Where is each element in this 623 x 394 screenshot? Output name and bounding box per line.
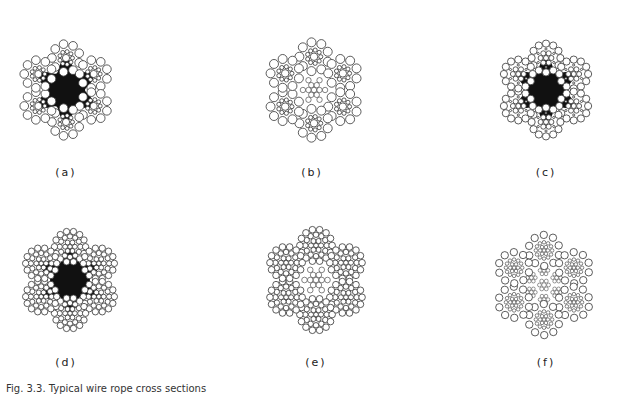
inner-wire <box>58 122 62 126</box>
inner-wire <box>508 301 512 305</box>
outer-wire <box>327 59 336 68</box>
outer-wire <box>550 131 557 138</box>
outer-wire <box>110 287 116 293</box>
outer-wire <box>270 93 279 102</box>
panel-label-f: (f) <box>537 356 555 369</box>
inner-wire <box>317 50 321 54</box>
inner-wire <box>549 119 554 124</box>
filler-wire <box>573 82 575 84</box>
inner-wire <box>286 290 291 295</box>
strand <box>22 278 59 315</box>
core-wire <box>317 97 322 102</box>
outer-wire <box>279 244 286 251</box>
outer-wire <box>99 309 105 315</box>
inner-wire <box>346 76 350 80</box>
outer-wire <box>316 226 323 233</box>
outer-wire <box>297 252 304 259</box>
core-wire <box>571 103 576 108</box>
inner-wire <box>337 99 341 103</box>
outer-wire <box>323 114 332 123</box>
mid-wire <box>512 309 516 313</box>
core-wire <box>547 283 551 287</box>
outer-wire <box>28 248 34 254</box>
core-wire <box>311 87 316 92</box>
inner-wire <box>33 78 37 82</box>
inner-wire <box>277 107 281 111</box>
mid-wire <box>564 266 568 270</box>
filler-wire <box>509 77 511 79</box>
inner-wire <box>348 71 352 75</box>
mid-wire <box>549 253 553 257</box>
inner-wire <box>346 299 351 304</box>
inner-wire <box>69 116 73 120</box>
core-wire <box>544 279 548 283</box>
inner-wire <box>70 240 75 245</box>
inner-wire <box>516 301 520 305</box>
outer-wire <box>273 272 280 279</box>
outer-wire <box>556 70 563 77</box>
outer-wire <box>279 310 286 317</box>
outer-wire <box>298 318 305 325</box>
inner-wire <box>513 99 518 104</box>
strand <box>22 245 59 282</box>
filler-wire <box>565 68 567 70</box>
mid-wire <box>505 262 509 266</box>
outer-wire <box>496 294 503 301</box>
inner-wire <box>88 110 92 114</box>
outer-wire <box>28 306 34 312</box>
inner-wire <box>284 98 288 102</box>
outer-wire <box>299 259 306 266</box>
core-wire <box>553 279 557 283</box>
outer-wire <box>92 245 98 251</box>
outer-wire <box>561 277 568 284</box>
mid-wire <box>568 259 572 263</box>
inner-wire <box>37 98 41 102</box>
outer-wire <box>24 287 30 293</box>
filler-wire <box>509 68 511 70</box>
iwrc-core <box>300 78 328 103</box>
core-wire <box>319 267 325 273</box>
core-wire <box>281 70 288 77</box>
outer-wire <box>353 247 360 254</box>
mid-wire <box>576 259 580 263</box>
mid-wire <box>546 256 550 260</box>
inner-wire <box>538 249 542 253</box>
outer-wire <box>527 63 534 70</box>
core-wire <box>553 287 557 291</box>
core-wire <box>512 301 516 305</box>
filler-wire <box>553 52 555 54</box>
inner-wire <box>94 290 99 295</box>
strand <box>80 245 117 282</box>
mid-wire <box>538 256 542 260</box>
inner-wire <box>280 110 284 114</box>
outer-wire <box>294 107 303 116</box>
mid-wire <box>565 305 569 309</box>
core-wire <box>542 318 546 322</box>
inner-wire <box>574 99 579 104</box>
outer-wire <box>353 281 360 288</box>
inner-wire <box>311 308 316 313</box>
outer-wire <box>570 88 577 95</box>
outer-wire <box>82 253 88 259</box>
core-wire <box>314 82 319 87</box>
outer-wire <box>24 267 30 273</box>
outer-wire <box>273 281 280 288</box>
inner-wire <box>319 121 323 125</box>
inner-wire <box>570 269 574 273</box>
mid-wire <box>534 318 538 322</box>
outer-wire <box>555 294 562 301</box>
panel-label-e: (e) <box>305 356 326 369</box>
inner-wire <box>280 77 284 81</box>
iwrc-core <box>302 267 331 293</box>
filler-wire <box>580 100 582 102</box>
outer-wire <box>297 301 304 308</box>
outer-wire <box>105 281 111 287</box>
outer-wire <box>297 287 304 294</box>
mid-wire <box>550 318 554 322</box>
outer-wire <box>352 74 361 83</box>
core-wire <box>314 92 319 97</box>
outer-wire <box>359 259 366 266</box>
outer-wire <box>103 74 112 83</box>
inner-wire <box>61 50 65 54</box>
outer-wire <box>41 82 50 91</box>
